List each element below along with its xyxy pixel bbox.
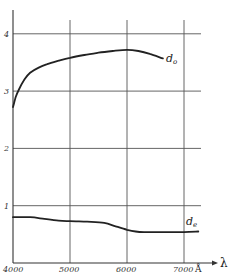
tick-labels: 12344000500060007000Åλ — [2, 30, 228, 274]
x-tick-label: 6000 — [116, 265, 136, 274]
curves — [13, 50, 198, 232]
curve-d-e — [13, 217, 198, 232]
curve-labels: dode — [166, 52, 197, 229]
y-tick-label: 2 — [3, 144, 9, 153]
chart: 12344000500060007000Åλ dode — [0, 0, 229, 276]
x-tick-label: 7000 — [173, 265, 193, 274]
label-d-o: do — [166, 52, 177, 66]
y-tick-label: 4 — [3, 30, 9, 39]
label-subscript: e — [193, 221, 197, 229]
x-unit-label: Å — [194, 263, 202, 274]
x-tick-label: 4000 — [2, 265, 23, 274]
x-axis-label: λ — [220, 256, 228, 270]
y-tick-label: 1 — [4, 202, 9, 211]
x-axis-arrow-icon — [212, 261, 218, 266]
y-tick-label: 3 — [4, 87, 9, 96]
x-tick-label: 5000 — [59, 265, 79, 274]
label-d-e: de — [186, 215, 197, 229]
label-subscript: o — [173, 58, 177, 66]
curve-d-o — [13, 50, 163, 107]
